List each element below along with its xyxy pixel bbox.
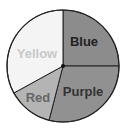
label-blue: Blue xyxy=(70,34,98,49)
label-yellow: Yellow xyxy=(17,46,58,61)
label-red: Red xyxy=(26,90,51,105)
label-purple: Purple xyxy=(63,84,103,99)
pie-chart: Blue Purple Red Yellow xyxy=(0,0,124,135)
pie-center-dot xyxy=(61,64,65,68)
